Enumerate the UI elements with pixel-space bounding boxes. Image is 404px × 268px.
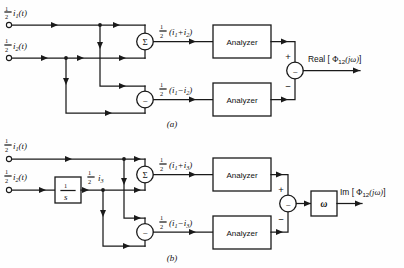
svg-text:1: 1 (5, 168, 8, 175)
analyzer-bottom-label-b: Analyzer (226, 229, 257, 238)
input-label-i1-den: 2 (5, 13, 8, 20)
input-label-i1-text: 1 (5, 5, 8, 12)
analyzer-top-label: Analyzer (226, 38, 257, 47)
svg-text:(i1−i3): (i1−i3) (169, 218, 192, 229)
minus-sign-a: − (285, 81, 291, 92)
svg-text:1: 1 (5, 137, 8, 144)
plus-sign-a: + (285, 51, 291, 62)
analyzer-top-label-b: Analyzer (226, 171, 257, 180)
svg-text:2: 2 (88, 178, 91, 185)
svg-text:1: 1 (160, 214, 163, 221)
input-label-i2-den: 2 (5, 46, 8, 53)
output-subtractor-b-symbol: − (285, 200, 290, 210)
diff-junction-b-symbol: − (142, 228, 147, 238)
svg-text:2: 2 (160, 165, 163, 172)
panel-a-caption: (a) (167, 119, 178, 129)
svg-text:2: 2 (5, 146, 8, 153)
svg-text:1: 1 (160, 23, 163, 30)
input-label-i1-body: i1(t) (13, 8, 27, 19)
plus-sign-b: + (278, 184, 284, 195)
svg-text:2: 2 (160, 90, 163, 97)
svg-text:2: 2 (160, 223, 163, 230)
omega-block-label: ω (321, 199, 328, 209)
input-label-i2-body: i2(t) (13, 41, 27, 52)
minus-sign-b: − (278, 214, 284, 225)
sum-junction-b-symbol: Σ (142, 170, 147, 180)
svg-text:i2(t): i2(t) (13, 172, 27, 183)
svg-text:1: 1 (160, 81, 163, 88)
block-diagram-figure: 1 2 i1(t) 1 2 i2(t) (0, 0, 404, 268)
svg-text:2: 2 (160, 32, 163, 39)
diff-junction-symbol: − (142, 96, 147, 106)
integrator-den: s (64, 192, 68, 202)
svg-text:(i1+i2): (i1+i2) (169, 27, 192, 38)
output-real-label: Real [ Φ12(jω)] (308, 54, 361, 65)
svg-text:i1(t): i1(t) (13, 141, 27, 152)
svg-text:2: 2 (5, 177, 8, 184)
input-terminal-i2-b[interactable] (6, 187, 11, 192)
output-subtractor-symbol: − (292, 67, 297, 77)
svg-text:1: 1 (160, 156, 163, 163)
input-terminal-i1[interactable] (6, 22, 11, 27)
panel-b-caption: (b) (167, 253, 178, 263)
svg-text:(i1−i2): (i1−i2) (169, 85, 192, 96)
input-label-i2-num: 1 (5, 37, 8, 44)
input-terminal-i2[interactable] (6, 55, 11, 60)
figure-background (0, 0, 404, 268)
integrator-num: 1 (64, 182, 67, 189)
svg-text:(i1+i3): (i1+i3) (169, 160, 192, 171)
input-terminal-i1-b[interactable] (6, 156, 11, 161)
svg-text:1: 1 (88, 169, 91, 176)
analyzer-bottom-label: Analyzer (226, 96, 257, 105)
sum-junction-symbol: Σ (142, 37, 147, 47)
